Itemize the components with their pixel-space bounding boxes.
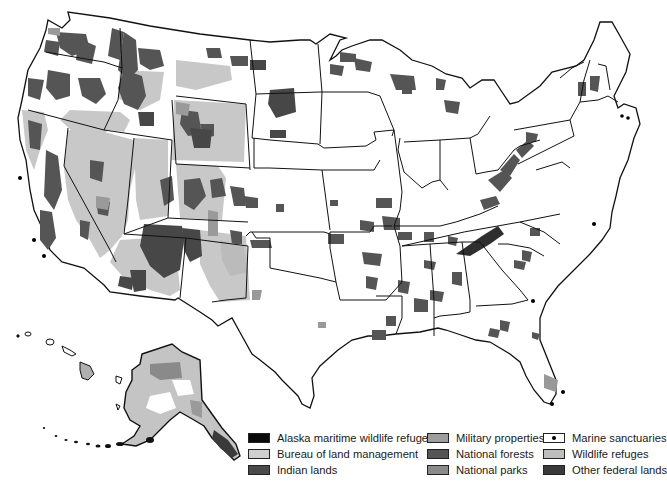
legend-label: Wildlife refuges	[572, 448, 648, 460]
marine-sanctuary-dot	[561, 390, 565, 394]
marine-sanctuary-dot	[32, 238, 36, 242]
marine-sanctuary-dot-icon	[543, 433, 565, 443]
legend-label: Military properties	[456, 432, 544, 444]
map-legend: Alaska maritime wildlife refuge Bureau o…	[246, 431, 664, 483]
legend-item-wildlife-refuges: Wildlife refuges	[543, 447, 648, 461]
legend-label: Alaska maritime wildlife refuge	[277, 432, 428, 444]
bureau-of-land-management-swatch-icon	[248, 449, 270, 459]
legend-label: Bureau of land management	[277, 448, 418, 460]
legend-item-national-forests: National forests	[427, 447, 534, 461]
legend-item-bureau-of-land-management: Bureau of land management	[248, 447, 418, 461]
other-federal-lands-swatch-icon	[543, 465, 565, 475]
legend-item-alaska-maritime-wildlife-refuge: Alaska maritime wildlife refuge	[248, 431, 428, 445]
legend-label: Marine sanctuaries	[572, 432, 667, 444]
wildlife-refuges-swatch-icon	[543, 449, 565, 459]
legend-item-military-properties: Military properties	[427, 431, 544, 445]
marine-sanctuary-dot	[592, 222, 596, 226]
legend-item-indian-lands: Indian lands	[248, 463, 337, 477]
marine-sanctuary-dot	[531, 299, 535, 303]
marine-sanctuary-dot	[626, 116, 630, 120]
legend-label: National parks	[456, 464, 528, 476]
legend-item-marine-sanctuaries: Marine sanctuaries	[543, 431, 667, 445]
marine-sanctuary-dot	[620, 114, 624, 118]
alaska-maritime-wildlife-refuge-swatch-icon	[248, 433, 270, 443]
legend-item-national-parks: National parks	[427, 463, 528, 477]
marine-sanctuary-dot	[42, 254, 46, 258]
legend-label: National forests	[456, 448, 534, 460]
legend-item-other-federal-lands: Other federal lands	[543, 463, 667, 477]
alaska	[43, 344, 240, 460]
legend-label: Other federal lands	[572, 464, 667, 476]
hawaii	[17, 332, 94, 380]
military-properties-swatch-icon	[427, 433, 449, 443]
marine-sanctuary-dot	[18, 176, 22, 180]
national-forests-swatch-icon	[427, 449, 449, 459]
indian-lands-swatch-icon	[248, 465, 270, 475]
marine-sanctuary-dot	[550, 402, 554, 406]
national-parks-swatch-icon	[427, 465, 449, 475]
legend-label: Indian lands	[277, 464, 337, 476]
